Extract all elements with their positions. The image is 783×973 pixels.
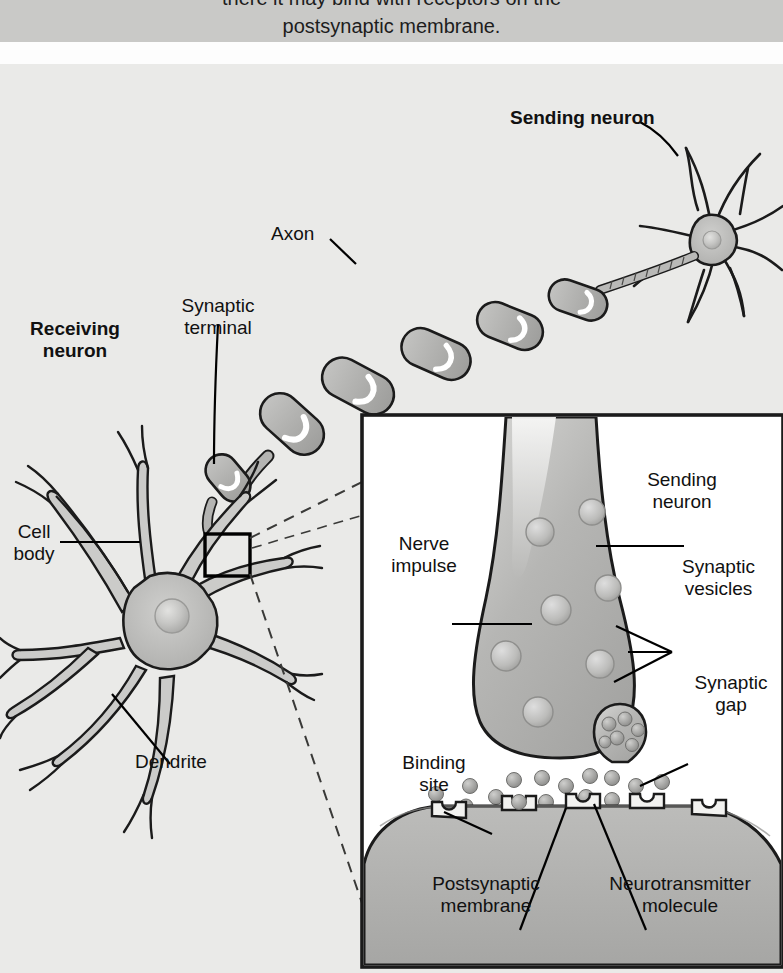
label-receiving-neuron: Receiving neuron (10, 318, 140, 362)
sending-neuron-graphic (634, 148, 783, 322)
caption-band: there it may bind with receptors on the … (0, 0, 783, 42)
neuron-diagram-artwork (0, 64, 783, 973)
docked-neurotransmitter (512, 795, 527, 810)
label-synaptic-gap: Synaptic gap (679, 672, 783, 716)
label-dendrite: Dendrite (135, 751, 207, 773)
label-postsynaptic-membrane: Postsynaptic membrane (400, 873, 572, 917)
label-cell-body: Cell body (6, 521, 62, 565)
label-neurotransmitter-molecule: Neurotransmitter molecule (578, 873, 782, 917)
figure-page: there it may bind with receptors on the … (0, 0, 783, 973)
label-nerve-impulse: Nerve impulse (375, 533, 473, 577)
label-sending-neuron: Sending neuron (510, 107, 655, 129)
label-inset-sending-neuron: Sending neuron (617, 469, 747, 513)
label-synaptic-terminal: Synaptic terminal (148, 295, 288, 339)
magnifier-leader-lines (250, 481, 364, 909)
receiving-neuron-nucleus (155, 599, 189, 633)
receiving-neuron-graphic (0, 426, 322, 838)
label-axon: Axon (271, 223, 314, 245)
label-synaptic-vesicles: Synaptic vesicles (661, 556, 776, 600)
sending-neuron-nucleus (703, 231, 721, 249)
label-binding-site: Binding site (382, 752, 486, 796)
caption-divider (0, 42, 783, 64)
caption-line-1: there it may bind with receptors on the (0, 0, 783, 12)
caption-line-2: postsynaptic membrane. (0, 12, 783, 40)
